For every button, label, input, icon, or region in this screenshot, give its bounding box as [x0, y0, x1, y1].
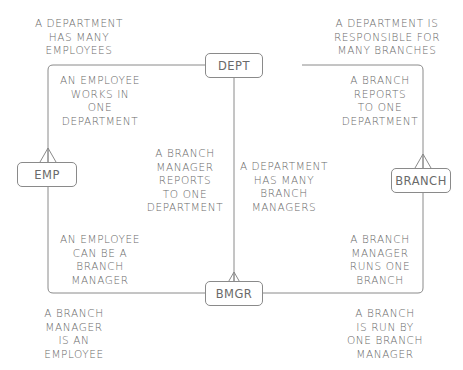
note-top-right: A DEPARTMENT IS RESPONSIBLE FOR MANY BRA…: [322, 17, 452, 58]
note-center-left: A BRANCH MANAGER REPORTS TO ONE DEPARTME…: [140, 147, 230, 215]
entity-emp-label: EMP: [34, 168, 60, 182]
branch-crows-foot: [415, 154, 431, 168]
entity-bmgr[interactable]: BMGR: [205, 281, 263, 306]
note-bottom-right: A BRANCH IS RUN BY ONE BRANCH MANAGER: [330, 307, 440, 361]
note-inner-bottom-right: A BRANCH MANAGER RUNS ONE BRANCH: [330, 233, 430, 287]
entity-branch-label: BRANCH: [395, 174, 447, 188]
note-inner-top-right: A BRANCH REPORTS TO ONE DEPARTMENT: [330, 74, 430, 128]
emp-crows-foot: [40, 148, 56, 162]
entity-bmgr-label: BMGR: [216, 287, 253, 301]
entity-dept[interactable]: DEPT: [205, 53, 263, 78]
entity-branch[interactable]: BRANCH: [391, 168, 451, 193]
note-inner-top-left: AN EMPLOYEE WORKS IN ONE DEPARTMENT: [50, 74, 150, 128]
entity-dept-label: DEPT: [218, 59, 250, 73]
note-bottom-left: A BRANCH MANAGER IS AN EMPLOYEE: [24, 307, 124, 361]
note-top-left: A DEPARTMENT HAS MANY EMPLOYEES: [24, 17, 134, 58]
entity-emp[interactable]: EMP: [17, 162, 77, 187]
note-center-right: A DEPARTMENT HAS MANY BRANCH MANAGERS: [234, 160, 334, 214]
note-inner-bottom-left: AN EMPLOYEE CAN BE A BRANCH MANAGER: [50, 233, 150, 287]
